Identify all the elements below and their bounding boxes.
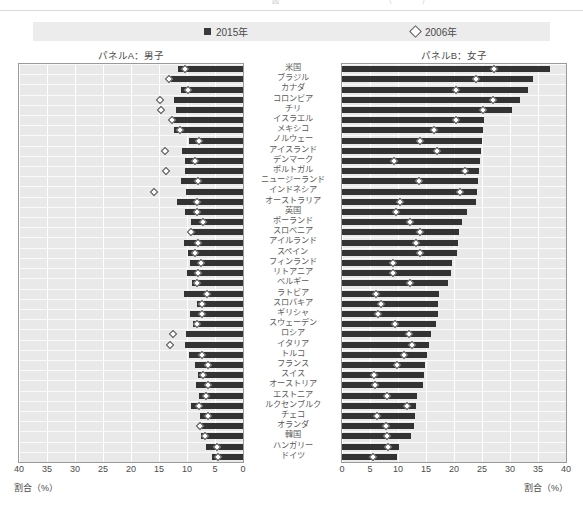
category-label: 英国 xyxy=(246,207,339,215)
bar-2015 xyxy=(342,76,533,82)
category-label: インドネシア xyxy=(246,186,339,194)
bar-2015 xyxy=(342,331,431,337)
bar-2015 xyxy=(342,178,478,184)
category-label: フランス xyxy=(246,360,339,368)
category-label: ベルギー xyxy=(246,278,339,286)
category-label: トルコ xyxy=(246,350,339,358)
panel-b-plot xyxy=(341,63,567,463)
bar-2015 xyxy=(342,301,438,307)
bar-2015 xyxy=(342,229,459,235)
panel-b-bars xyxy=(342,64,566,462)
marker-2006 xyxy=(169,330,177,338)
bar-2015 xyxy=(342,311,438,317)
chart-legend: 2015年 2006年 xyxy=(33,22,550,41)
category-label: メキシコ xyxy=(246,125,339,133)
category-label: スイス xyxy=(246,370,339,378)
category-label: イスラエル xyxy=(246,115,339,123)
axis-tick-label: 35 xyxy=(42,464,52,474)
marker-2006 xyxy=(156,95,164,103)
axis-tick-label: 15 xyxy=(421,464,431,474)
bar-2015 xyxy=(192,229,243,235)
bar-2015 xyxy=(342,148,481,154)
bar-2015 xyxy=(172,117,243,123)
header-divider xyxy=(0,10,583,11)
category-label: アイルランド xyxy=(246,237,339,245)
category-label: ドイツ xyxy=(246,452,339,460)
gridline-horizontal xyxy=(19,462,243,463)
bar-2015 xyxy=(342,382,423,388)
axis-tick-label: 5 xyxy=(212,464,217,474)
panel-a-title: パネルA：男子 xyxy=(18,48,244,62)
panel-a-plot xyxy=(18,63,244,463)
category-label: チリ xyxy=(246,105,339,113)
bar-2015 xyxy=(174,97,243,103)
marker-2006 xyxy=(157,106,165,114)
panel-a-axis-label: 割合（%） xyxy=(14,481,58,494)
bar-2015 xyxy=(196,382,243,388)
category-label: イタリア xyxy=(246,340,339,348)
category-label: ノルウェー xyxy=(246,135,339,143)
bar-2015 xyxy=(342,117,484,123)
bar-2015 xyxy=(186,189,243,195)
panel-b-axis-label: 割合（%） xyxy=(524,481,568,494)
axis-tick-label: 20 xyxy=(126,464,136,474)
bar-2015 xyxy=(342,423,414,429)
category-label: リトアニア xyxy=(246,268,339,276)
bar-2015 xyxy=(342,250,457,256)
axis-tick-label: 30 xyxy=(70,464,80,474)
chart-page: 図 （ ） 2015年 2006年 パネルA：男子 パネルB：女子 米国ブラジル… xyxy=(0,0,583,512)
category-labels: 米国ブラジルカナダコロンビアチリイスラエルメキシコノルウェーアイスランドデンマー… xyxy=(246,63,339,463)
gridline-horizontal xyxy=(342,462,566,463)
axis-tick-label: 10 xyxy=(182,464,192,474)
category-label: アイスランド xyxy=(246,146,339,154)
panel-b-title: パネルB：女子 xyxy=(341,48,567,62)
legend-item-2006: 2006年 xyxy=(411,22,457,41)
top-caption-text: 図 （ ） xyxy=(272,0,430,5)
axis-tick-label: 10 xyxy=(393,464,403,474)
panel-b-axis: 0510152025303540 xyxy=(341,464,567,476)
bar-2015 xyxy=(342,66,550,72)
bar-2015 xyxy=(342,433,411,439)
marker-2006 xyxy=(161,167,169,175)
bar-2015 xyxy=(184,291,243,297)
axis-tick-label: 0 xyxy=(240,464,245,474)
axis-tick-label: 15 xyxy=(154,464,164,474)
bar-2015 xyxy=(342,199,476,205)
category-label: スペイン xyxy=(246,248,339,256)
bar-2015 xyxy=(342,209,467,215)
category-label: ロシア xyxy=(246,329,339,337)
category-label: 米国 xyxy=(246,64,339,72)
bar-2015 xyxy=(342,393,417,399)
category-label: チェコ xyxy=(246,411,339,419)
bar-2015 xyxy=(198,423,243,429)
axis-tick-label: 40 xyxy=(14,464,24,474)
category-label: ラトビア xyxy=(246,289,339,297)
bar-2015 xyxy=(181,178,243,184)
legend-item-2015: 2015年 xyxy=(204,22,248,41)
bar-2015 xyxy=(185,342,243,348)
gridline-vertical xyxy=(566,64,567,462)
bar-2015 xyxy=(342,240,458,246)
open-diamond-icon xyxy=(409,25,422,38)
marker-2006 xyxy=(160,146,168,154)
category-label: スウェーデン xyxy=(246,319,339,327)
bar-2015 xyxy=(342,219,462,225)
category-label: コロンビア xyxy=(246,95,339,103)
category-label: ギリシャ xyxy=(246,309,339,317)
filled-square-icon xyxy=(204,28,211,35)
marker-2006 xyxy=(150,187,158,195)
bar-2015 xyxy=(342,372,424,378)
category-label: デンマーク xyxy=(246,156,339,164)
category-label: オーストラリア xyxy=(246,197,339,205)
bar-2015 xyxy=(342,280,448,286)
bar-2015 xyxy=(342,362,425,368)
gridline-vertical xyxy=(243,64,244,462)
axis-tick-label: 30 xyxy=(505,464,515,474)
axis-tick-label: 0 xyxy=(339,464,344,474)
bar-2015 xyxy=(342,127,483,133)
category-label: スロベニア xyxy=(246,227,339,235)
category-label: オーストリア xyxy=(246,380,339,388)
bar-2015 xyxy=(186,331,243,337)
bar-2015 xyxy=(342,291,439,297)
bar-2015 xyxy=(342,352,427,358)
